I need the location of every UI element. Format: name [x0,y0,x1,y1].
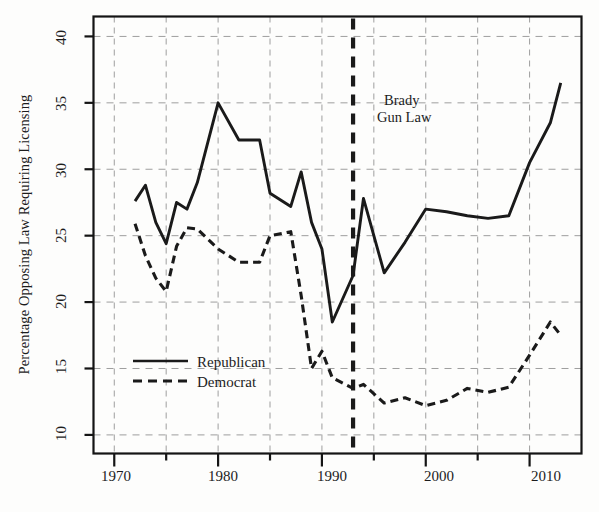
chart-canvas [0,0,599,512]
y-tick-label-30: 30 [53,154,70,188]
y-tick-label-15: 15 [53,350,70,384]
y-tick-label-25: 25 [53,219,70,253]
y-axis-title: Percentage Opposing Law Requiring Licens… [16,25,33,445]
y-tick-label-35: 35 [53,87,70,121]
annotation-brady-line1: Brady [384,92,419,109]
legend-label-democrat: Democrat [197,374,256,391]
chart-figure: Percentage Opposing Law Requiring Licens… [0,0,599,512]
axis-ticks [85,36,530,466]
x-tick-label-2000: 2000 [409,468,469,485]
y-tick-label-40: 40 [53,21,70,55]
series-line-republican [135,83,561,322]
y-tick-label-20: 20 [53,285,70,319]
legend-label-republican: Republican [197,354,265,371]
y-tick-label-10: 10 [53,417,70,451]
x-tick-label-1980: 1980 [193,468,253,485]
x-tick-label-1970: 1970 [86,468,146,485]
annotation-brady-line2: Gun Law [377,109,431,126]
x-tick-label-2010: 2010 [516,468,576,485]
legend-sample-lines [133,361,188,381]
x-tick-label-1990: 1990 [302,468,362,485]
